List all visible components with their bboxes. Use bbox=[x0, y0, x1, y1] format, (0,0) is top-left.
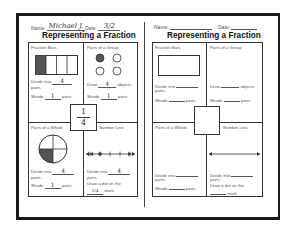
sheet-divider bbox=[144, 22, 145, 207]
group-objects-drawing bbox=[95, 53, 125, 77]
name-value[interactable] bbox=[170, 23, 212, 30]
dot-answer[interactable] bbox=[210, 188, 226, 195]
shade-answer[interactable]: 1 bbox=[45, 93, 61, 100]
date-label: Date: bbox=[218, 24, 230, 30]
shade-answer[interactable]: 1 bbox=[45, 182, 61, 189]
number-line-label: Number Line bbox=[223, 125, 248, 130]
dot-answer[interactable]: 1/4 bbox=[87, 188, 103, 195]
parts-of-whole-label: Parts of a Whole bbox=[31, 125, 63, 130]
parts-of-whole-shade-field[interactable]: Shade 1 parts. bbox=[31, 182, 73, 189]
draw-answer[interactable] bbox=[221, 81, 239, 88]
name-label: Name: bbox=[154, 24, 169, 30]
date-value[interactable]: 3/2 bbox=[98, 23, 120, 31]
fraction-box[interactable] bbox=[194, 106, 220, 135]
dot-instruction: Draw a dot on the bbox=[87, 180, 121, 187]
divide-answer[interactable]: 4 bbox=[52, 168, 74, 175]
number-line-drawing bbox=[85, 150, 137, 158]
parts-of-group-shade-field[interactable]: Shade 1 parts. bbox=[87, 93, 129, 100]
shade-answer[interactable] bbox=[169, 183, 185, 190]
number-line-label: Number Line bbox=[99, 125, 124, 130]
number-line-drawing[interactable] bbox=[208, 151, 261, 157]
name-field[interactable]: Name: Michael J. bbox=[31, 23, 85, 31]
date-value[interactable] bbox=[231, 23, 257, 30]
worksheet-title: Representing a Fraction bbox=[167, 31, 261, 40]
parts-of-group-shade-field[interactable]: Shade parts. bbox=[210, 95, 252, 104]
number-line-dot-field[interactable]: mark. bbox=[210, 188, 238, 197]
shade-answer[interactable] bbox=[169, 95, 185, 102]
worksheet-title: Representing a Fraction bbox=[42, 31, 136, 40]
shade-answer[interactable] bbox=[224, 95, 240, 102]
fraction-bar-drawing[interactable] bbox=[158, 55, 200, 76]
fraction-box: 1 4 bbox=[70, 104, 97, 131]
fraction-bars-label: Fraction Bars bbox=[31, 45, 57, 50]
fraction-denominator: 4 bbox=[71, 119, 96, 127]
divide-answer[interactable]: 4 bbox=[52, 78, 72, 85]
divide-answer[interactable] bbox=[231, 170, 253, 177]
date-field[interactable]: Date: bbox=[218, 23, 257, 30]
fraction-bars-shade-field[interactable]: Shade 1 parts. bbox=[31, 93, 73, 100]
number-line-dot-field[interactable]: 1/4 mark. bbox=[87, 187, 115, 195]
parts-of-whole-label: Parts of a Whole bbox=[155, 125, 187, 130]
parts-of-group-label: Parts of a Group bbox=[87, 45, 119, 50]
parts-label: parts. bbox=[31, 174, 42, 181]
divide-answer[interactable] bbox=[176, 170, 198, 177]
draw-answer[interactable]: 4 bbox=[98, 81, 116, 88]
shade-answer[interactable]: 1 bbox=[101, 93, 117, 100]
divide-answer[interactable]: 4 bbox=[108, 168, 130, 175]
fraction-bars-label: Fraction Bars bbox=[155, 45, 181, 50]
fraction-bar-drawing bbox=[35, 55, 78, 75]
name-field[interactable]: Name: bbox=[154, 23, 212, 30]
parts-of-whole-shade-field[interactable]: Shade parts. bbox=[155, 183, 197, 192]
parts-label: parts. bbox=[155, 176, 166, 183]
fraction-numerator: 1 bbox=[71, 108, 96, 116]
parts-label: parts. bbox=[155, 87, 166, 94]
parts-of-group-label: Parts of a Group bbox=[210, 45, 242, 50]
parts-of-group-draw-field[interactable]: Draw objects. bbox=[210, 81, 255, 90]
divide-answer[interactable] bbox=[176, 81, 198, 88]
date-field[interactable]: Date: 3/2 bbox=[85, 23, 120, 31]
whole-circle-drawing bbox=[38, 134, 68, 164]
parts-label: parts. bbox=[31, 84, 42, 91]
name-value[interactable]: Michael J. bbox=[47, 23, 85, 31]
fraction-bars-shade-field[interactable]: Shade parts. bbox=[155, 95, 197, 104]
parts-of-group-draw-field[interactable]: Draw 4 objects. bbox=[87, 81, 132, 88]
